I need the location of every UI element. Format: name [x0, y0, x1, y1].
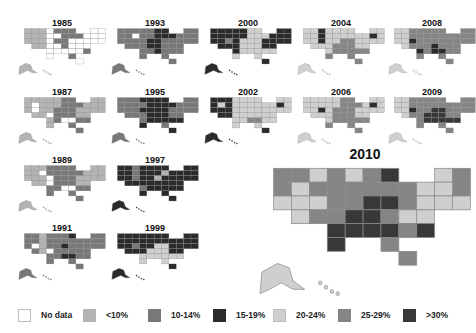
- state-OK: [46, 186, 53, 191]
- state-NM: [39, 113, 46, 118]
- state-WI: [154, 234, 161, 239]
- state-PA: [76, 176, 83, 181]
- state-IN: [162, 239, 169, 244]
- state-PA: [169, 176, 176, 181]
- us-map: [18, 27, 106, 76]
- state-OH: [446, 103, 453, 108]
- state-MS: [154, 254, 161, 259]
- state-IL: [154, 34, 161, 39]
- state-IA: [240, 103, 247, 108]
- state-NE: [139, 244, 146, 249]
- state-ID: [125, 234, 132, 239]
- legend-swatch: [18, 309, 31, 322]
- state-MO: [345, 196, 363, 210]
- state-CA: [24, 108, 31, 113]
- state-MT: [225, 29, 232, 34]
- state-SD: [139, 103, 146, 108]
- state-KY: [431, 108, 438, 113]
- state-MO: [333, 108, 340, 113]
- state-CO: [132, 176, 139, 181]
- state-ME: [284, 98, 291, 103]
- state-AL: [162, 49, 169, 54]
- state-NM: [318, 113, 325, 118]
- state-AL: [69, 118, 76, 123]
- legend-label: 10-14%: [171, 310, 200, 320]
- state-NV: [311, 103, 318, 108]
- state-TN: [154, 113, 161, 118]
- state-OH: [355, 103, 362, 108]
- state-ID: [402, 29, 409, 34]
- state-HI: [330, 290, 334, 294]
- state-AR: [54, 44, 61, 49]
- state-KS: [416, 113, 423, 118]
- state-RI: [191, 176, 198, 181]
- state-GA: [439, 54, 446, 59]
- state-VT: [91, 29, 98, 34]
- state-LA: [333, 49, 340, 54]
- state-VT: [370, 29, 377, 34]
- state-DE: [83, 113, 90, 118]
- state-LA: [54, 49, 61, 54]
- state-UT: [32, 108, 39, 113]
- state-MO: [54, 176, 61, 181]
- state-KS: [46, 44, 53, 49]
- state-GA: [162, 259, 169, 264]
- state-SC: [453, 118, 460, 123]
- state-AL: [162, 254, 169, 259]
- state-ND: [232, 29, 239, 34]
- state-KS: [232, 113, 239, 118]
- state-WV: [381, 196, 399, 210]
- state-IA: [240, 34, 247, 39]
- state-UT: [32, 39, 39, 44]
- state-NY: [83, 34, 90, 39]
- us-map: [111, 96, 199, 145]
- state-NM: [132, 249, 139, 254]
- state-AR: [54, 181, 61, 186]
- state-MI: [162, 166, 169, 171]
- state-AZ: [402, 113, 409, 118]
- state-WI: [61, 234, 68, 239]
- state-AR: [424, 44, 431, 49]
- state-MS: [340, 49, 347, 54]
- state-NV: [125, 239, 132, 244]
- state-RI: [377, 39, 384, 44]
- state-CT: [370, 39, 377, 44]
- state-HI: [141, 73, 142, 74]
- state-AK: [19, 132, 37, 143]
- state-PA: [446, 39, 453, 44]
- state-MN: [147, 234, 154, 239]
- state-HI: [418, 142, 419, 143]
- state-GA: [69, 54, 76, 59]
- state-CO: [318, 39, 325, 44]
- state-NH: [468, 34, 475, 39]
- state-HI: [136, 275, 137, 276]
- state-NJ: [176, 39, 183, 44]
- state-NV: [125, 171, 132, 176]
- state-AZ: [125, 249, 132, 254]
- state-AZ: [32, 113, 39, 118]
- state-WY: [409, 103, 416, 108]
- us-map: [204, 27, 292, 76]
- state-MT: [318, 29, 325, 34]
- state-MT: [132, 98, 139, 103]
- state-HI: [138, 208, 139, 209]
- state-IL: [61, 103, 68, 108]
- state-OH: [169, 171, 176, 176]
- state-VA: [255, 113, 262, 118]
- state-NE: [325, 39, 332, 44]
- state-KS: [46, 181, 53, 186]
- state-WV: [69, 244, 76, 249]
- state-FL: [262, 128, 269, 133]
- state-TX: [139, 123, 146, 128]
- state-IL: [247, 34, 254, 39]
- state-AZ: [218, 44, 225, 49]
- state-KS: [325, 113, 332, 118]
- state-NY: [176, 171, 183, 176]
- state-MN: [333, 98, 340, 103]
- state-WI: [247, 98, 254, 103]
- state-AZ: [32, 44, 39, 49]
- state-CT: [184, 39, 191, 44]
- state-MS: [61, 118, 68, 123]
- state-NY: [362, 103, 369, 108]
- state-CA: [210, 108, 217, 113]
